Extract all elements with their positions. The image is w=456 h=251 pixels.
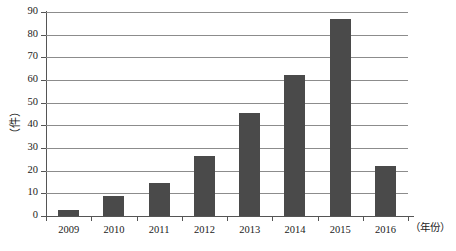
y-tick-label: 90 (16, 6, 38, 16)
bars-group (46, 12, 408, 216)
x-axis-title: （年份） (410, 222, 450, 234)
x-tick-label-2015: 2015 (317, 224, 363, 236)
bar-2011 (149, 183, 170, 216)
bar-2015 (330, 19, 351, 216)
y-tick-label-wrap-80: 80 (14, 29, 38, 39)
y-tick-label: 60 (16, 74, 38, 84)
x-tick-label-2013: 2013 (227, 224, 273, 236)
y-tick-label-wrap-60: 60 (14, 74, 38, 84)
bar-2013 (239, 113, 260, 216)
y-tick-label: 30 (16, 142, 38, 152)
y-tick-label-wrap-40: 40 (14, 119, 38, 129)
x-tick-5 (272, 216, 273, 221)
x-tick-label-2014: 2014 (272, 224, 318, 236)
x-tick-6 (318, 216, 319, 221)
y-tick-label-wrap-50: 50 (14, 97, 38, 107)
bar-2012 (194, 156, 215, 216)
y-tick-label-wrap-70: 70 (14, 51, 38, 61)
x-tick-4 (227, 216, 228, 221)
x-tick-label-2012: 2012 (181, 224, 227, 236)
y-tick-label: 10 (16, 187, 38, 197)
y-tick-label-wrap-0: 0 (14, 210, 38, 220)
y-tick-label: 40 (16, 119, 38, 129)
x-tick-0 (46, 216, 47, 221)
x-tick-2 (137, 216, 138, 221)
bar-2009 (58, 210, 79, 216)
x-axis-extension (408, 216, 414, 217)
y-tick-label-wrap-30: 30 (14, 142, 38, 152)
y-tick-label: 0 (16, 210, 38, 220)
x-tick-label-2009: 2009 (46, 224, 92, 236)
bar-2014 (284, 75, 305, 216)
x-tick-7 (363, 216, 364, 221)
x-tick-1 (91, 216, 92, 221)
y-tick-label: 20 (16, 165, 38, 175)
bar-chart: （件） 0102030405060708090 2009201020112012… (0, 0, 456, 251)
x-tick-3 (182, 216, 183, 221)
plot-area (46, 12, 408, 216)
y-tick-label-wrap-20: 20 (14, 165, 38, 175)
y-tick-label-wrap-10: 10 (14, 187, 38, 197)
y-tick-label: 80 (16, 29, 38, 39)
x-tick-label-2010: 2010 (91, 224, 137, 236)
bar-2010 (103, 196, 124, 216)
bar-2016 (375, 166, 396, 216)
x-tick-label-2011: 2011 (136, 224, 182, 236)
x-tick-label-2016: 2016 (362, 224, 408, 236)
y-tick-label: 50 (16, 97, 38, 107)
y-tick-label-wrap-90: 90 (14, 6, 38, 16)
y-tick-label: 70 (16, 51, 38, 61)
